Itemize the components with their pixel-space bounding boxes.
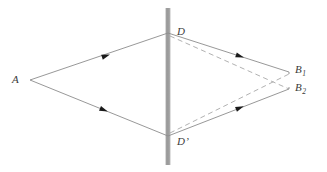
label-b2-subscript: 2	[302, 87, 306, 96]
prime-mark: ’	[185, 135, 189, 147]
dashed-rays-group	[170, 36, 289, 133]
label-point-d: D	[177, 26, 185, 37]
diagram-canvas	[0, 0, 327, 172]
ray-a-to-d	[30, 33, 168, 80]
arrowhead-a-to-dprime	[99, 106, 109, 114]
ray-dprime-to-b1-dashed	[170, 74, 289, 133]
incident-rays-group	[30, 33, 168, 136]
label-point-a: A	[12, 74, 19, 85]
arrowhead-d-to-b1	[235, 52, 245, 60]
label-b1-subscript: 1	[302, 69, 306, 78]
label-b2-base: B	[295, 81, 302, 93]
ray-dprime-to-b2	[168, 89, 289, 136]
optics-interference-figure: A D D’ B1 B2	[0, 0, 327, 172]
label-d-prime-base: D	[177, 135, 185, 147]
ray-d-to-b2-dashed	[170, 36, 289, 89]
ray-a-to-dprime	[30, 80, 168, 136]
label-b1-base: B	[295, 63, 302, 75]
barrier-bar	[166, 8, 171, 165]
label-point-b2: B2	[295, 82, 306, 93]
barrier-group	[166, 8, 171, 165]
label-point-d-prime: D’	[177, 136, 189, 147]
label-point-b1: B1	[295, 64, 306, 75]
ray-d-to-b1	[168, 33, 289, 72]
emergent-rays-group	[168, 33, 289, 136]
arrowheads-group	[99, 52, 245, 114]
arrowhead-dprime-to-b2	[235, 104, 245, 112]
